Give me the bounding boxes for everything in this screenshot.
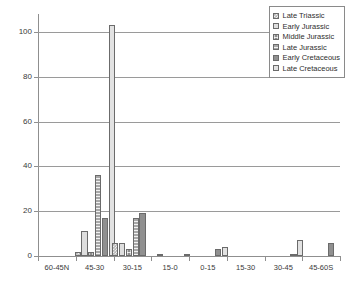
x-tick-mark	[227, 257, 228, 261]
x-tick-label: 30-15	[114, 263, 152, 272]
bar	[290, 254, 296, 256]
legend-item[interactable]: Middle Jurassic	[273, 32, 340, 42]
y-tick-label: 20	[4, 206, 32, 215]
bar	[297, 240, 303, 256]
gridline	[38, 122, 340, 123]
legend-label: Middle Jurassic	[282, 32, 334, 41]
bar	[126, 249, 132, 256]
x-tick-mark	[340, 257, 341, 261]
x-tick-label: 45-60S	[302, 263, 340, 272]
x-tick-mark	[265, 257, 266, 261]
y-tick-label: 60	[4, 117, 32, 126]
legend-item[interactable]: Late Jurassic	[273, 42, 340, 52]
bar	[133, 218, 139, 256]
x-tick-mark	[189, 257, 190, 261]
gridline	[38, 211, 340, 212]
y-tick-label: 100	[4, 27, 32, 36]
x-tick-label: 60-45N	[38, 263, 76, 272]
legend-item[interactable]: Late Cretaceous	[273, 63, 340, 73]
x-tick-label: 15-0	[151, 263, 189, 272]
legend-swatch-icon	[273, 55, 279, 61]
x-tick-label: 0-15	[189, 263, 227, 272]
bar	[157, 254, 163, 256]
legend-item[interactable]: Early Cretaceous	[273, 53, 340, 63]
chart-legend: Late TriassicEarly JurassicMiddle Jurass…	[269, 6, 345, 78]
x-tick-label: 45-30	[76, 263, 114, 272]
bar	[109, 25, 115, 256]
bar	[88, 252, 94, 256]
legend-item[interactable]: Late Triassic	[273, 11, 340, 21]
x-tick-label: 15-30	[227, 263, 265, 272]
legend-swatch-icon	[273, 34, 279, 40]
y-tick-label: 80	[4, 72, 32, 81]
legend-label: Early Cretaceous	[282, 53, 340, 62]
y-tick-mark	[34, 32, 38, 33]
bar	[215, 249, 221, 256]
y-tick-mark	[34, 166, 38, 167]
bar	[95, 175, 101, 256]
legend-swatch-icon	[273, 65, 279, 71]
legend-swatch-icon	[273, 23, 279, 29]
x-tick-mark	[114, 257, 115, 261]
legend-label: Late Jurassic	[282, 43, 326, 52]
bar	[184, 254, 190, 256]
bar	[75, 252, 81, 256]
y-tick-mark	[34, 211, 38, 212]
y-tick-label: 0	[4, 251, 32, 260]
x-tick-mark	[302, 257, 303, 261]
bar	[112, 243, 118, 256]
bar	[139, 213, 145, 256]
bar	[81, 231, 87, 256]
gridline	[38, 166, 340, 167]
bar	[328, 243, 334, 256]
y-tick-mark	[34, 122, 38, 123]
x-tick-mark	[76, 257, 77, 261]
legend-label: Late Triassic	[282, 11, 324, 20]
x-tick-label: 30-45	[265, 263, 303, 272]
bar-chart: 020406080100 60-45N45-3030-1515-00-1515-…	[0, 0, 351, 295]
x-tick-mark	[151, 257, 152, 261]
legend-label: Early Jurassic	[282, 22, 329, 31]
legend-swatch-icon	[273, 44, 279, 50]
bar	[222, 247, 228, 256]
y-tick-mark	[34, 77, 38, 78]
y-tick-label: 40	[4, 161, 32, 170]
legend-label: Late Cretaceous	[282, 64, 337, 73]
bar	[119, 243, 125, 256]
legend-swatch-icon	[273, 13, 279, 19]
x-tick-mark	[38, 257, 39, 261]
legend-item[interactable]: Early Jurassic	[273, 21, 340, 31]
bar	[102, 218, 108, 256]
